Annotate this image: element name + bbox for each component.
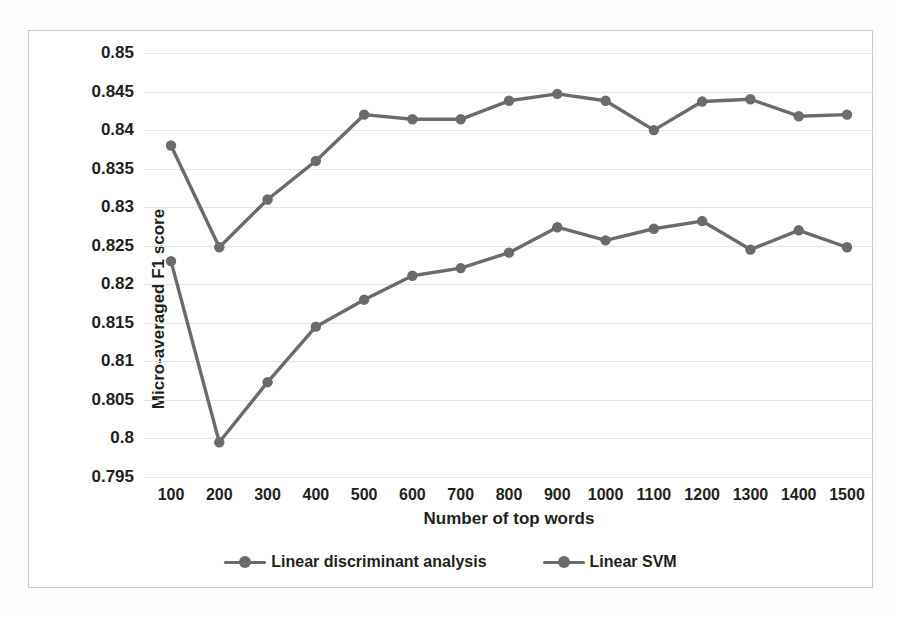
x-tick-label: 800 xyxy=(496,486,523,504)
y-tick-label: 0.81 xyxy=(101,351,134,371)
data-point-marker[interactable] xyxy=(166,140,176,150)
data-point-marker[interactable] xyxy=(166,256,176,266)
data-point-marker[interactable] xyxy=(214,242,224,252)
x-tick-label: 100 xyxy=(158,486,185,504)
x-tick-label: 700 xyxy=(447,486,474,504)
x-tick-label: 400 xyxy=(302,486,329,504)
x-tick-label: 900 xyxy=(544,486,571,504)
data-point-marker[interactable] xyxy=(794,111,804,121)
data-point-marker[interactable] xyxy=(552,89,562,99)
x-tick-label: 600 xyxy=(399,486,426,504)
x-axis-title: Number of top words xyxy=(144,509,874,529)
data-point-marker[interactable] xyxy=(697,216,707,226)
x-tick-label: 1000 xyxy=(588,486,624,504)
y-tick-label: 0.84 xyxy=(101,120,134,140)
data-point-marker[interactable] xyxy=(600,96,610,106)
y-tick-label: 0.82 xyxy=(101,274,134,294)
x-tick-label: 1300 xyxy=(733,486,769,504)
x-tick-label: 500 xyxy=(351,486,378,504)
x-tick-label: 300 xyxy=(254,486,281,504)
data-point-marker[interactable] xyxy=(407,114,417,124)
data-point-marker[interactable] xyxy=(504,247,514,257)
chart-legend: Linear discriminant analysis Linear SVM xyxy=(29,553,872,571)
legend-label: Linear discriminant analysis xyxy=(271,553,486,571)
data-point-marker[interactable] xyxy=(842,109,852,119)
y-tick-label: 0.795 xyxy=(91,467,134,487)
y-tick-label: 0.8 xyxy=(110,428,134,448)
legend-marker-icon xyxy=(224,555,266,569)
data-point-marker[interactable] xyxy=(697,96,707,106)
gridline xyxy=(144,477,874,478)
data-point-marker[interactable] xyxy=(649,224,659,234)
data-point-marker[interactable] xyxy=(456,114,466,124)
data-point-marker[interactable] xyxy=(214,437,224,447)
y-tick-label: 0.83 xyxy=(101,197,134,217)
data-point-marker[interactable] xyxy=(359,294,369,304)
y-tick-label: 0.845 xyxy=(91,82,134,102)
data-point-marker[interactable] xyxy=(504,96,514,106)
y-tick-label: 0.835 xyxy=(91,159,134,179)
figure-container: Micro-averaged F1 score 0.850.8450.840.8… xyxy=(0,0,901,617)
plot-area: 0.850.8450.840.8350.830.8250.820.8150.81… xyxy=(144,53,874,477)
series-line xyxy=(171,94,847,247)
data-point-marker[interactable] xyxy=(456,263,466,273)
y-tick-label: 0.815 xyxy=(91,313,134,333)
x-tick-label: 200 xyxy=(206,486,233,504)
y-tick-label: 0.85 xyxy=(101,43,134,63)
legend-marker-icon xyxy=(543,555,585,569)
data-point-marker[interactable] xyxy=(649,125,659,135)
data-point-marker[interactable] xyxy=(600,235,610,245)
x-tick-label: 1400 xyxy=(781,486,817,504)
data-point-marker[interactable] xyxy=(552,222,562,232)
data-point-marker[interactable] xyxy=(794,225,804,235)
data-point-marker[interactable] xyxy=(359,109,369,119)
legend-label: Linear SVM xyxy=(590,553,677,571)
chart-frame: Micro-averaged F1 score 0.850.8450.840.8… xyxy=(28,30,873,588)
x-tick-label: 1500 xyxy=(829,486,865,504)
data-point-marker[interactable] xyxy=(745,244,755,254)
data-point-marker[interactable] xyxy=(262,377,272,387)
series-layer xyxy=(144,53,874,477)
data-point-marker[interactable] xyxy=(407,271,417,281)
legend-item-lda[interactable]: Linear discriminant analysis xyxy=(224,553,486,571)
data-point-marker[interactable] xyxy=(311,321,321,331)
data-point-marker[interactable] xyxy=(262,194,272,204)
data-point-marker[interactable] xyxy=(842,242,852,252)
x-tick-label: 1100 xyxy=(636,486,671,504)
data-point-marker[interactable] xyxy=(745,94,755,104)
legend-item-svm[interactable]: Linear SVM xyxy=(543,553,677,571)
y-tick-label: 0.805 xyxy=(91,390,134,410)
x-tick-label: 1200 xyxy=(684,486,720,504)
data-point-marker[interactable] xyxy=(311,156,321,166)
series-svm xyxy=(166,216,852,448)
series-lda xyxy=(166,89,852,253)
y-tick-label: 0.825 xyxy=(91,236,134,256)
